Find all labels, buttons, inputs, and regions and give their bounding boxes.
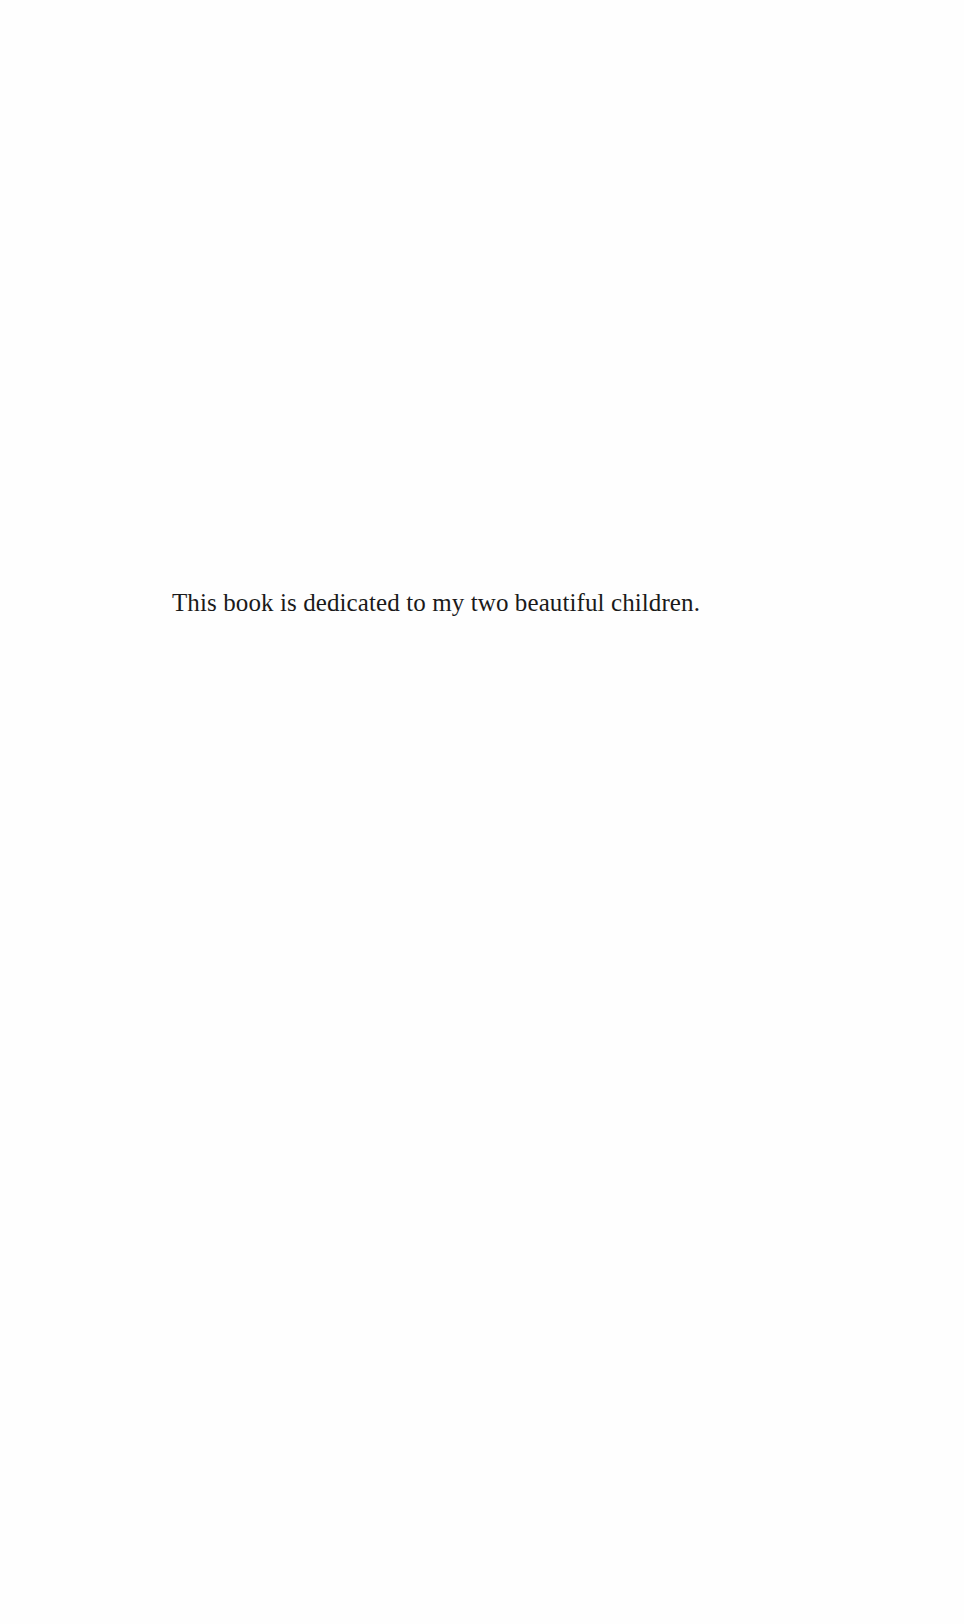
book-page: This book is dedicated to my two beautif… <box>0 0 964 1624</box>
dedication-text: This book is dedicated to my two beautif… <box>172 587 732 619</box>
